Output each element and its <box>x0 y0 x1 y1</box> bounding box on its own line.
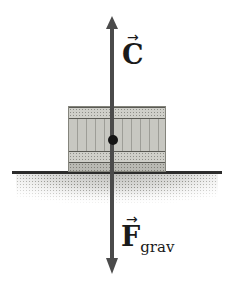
up-arrowhead-icon <box>106 16 118 29</box>
ground-shadow <box>16 174 218 212</box>
vector-c-letter: C <box>122 39 144 70</box>
crate-planks <box>69 119 165 151</box>
physics-diagram: → C → Fgrav <box>0 0 233 282</box>
vector-c-label: → C <box>122 33 144 68</box>
vector-f-letter: Fgrav <box>121 221 174 252</box>
vector-f-main: F <box>121 221 140 252</box>
down-arrowhead-icon <box>106 258 118 274</box>
crate-bottom-band <box>69 151 165 163</box>
center-of-mass-dot <box>108 135 118 145</box>
crate-top-band <box>69 107 165 119</box>
vector-f-subscript: grav <box>140 238 174 256</box>
vector-fgrav-label: → Fgrav <box>121 215 174 260</box>
crate-bottom-strip <box>69 163 165 171</box>
